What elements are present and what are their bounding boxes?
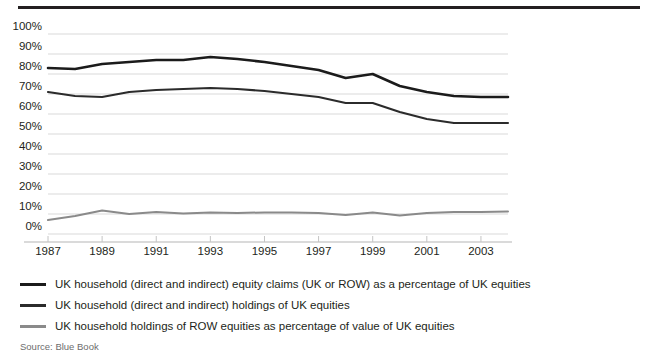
x-axis-tick-label: 1993 [198,245,224,257]
legend-line-swatch-icon [20,283,46,286]
legend-item-uk-holdings: UK household (direct and indirect) holdi… [20,295,620,316]
series-line-3 [48,210,508,220]
x-axis-tick-label: 2003 [468,245,494,257]
legend-item-label: UK household (direct and indirect) equit… [55,278,531,291]
legend-item-equity-claims: UK household (direct and indirect) equit… [20,274,620,295]
x-axis-tick-label: 1991 [143,245,169,257]
y-axis-tick-label: 40% [19,140,42,152]
y-axis-tick-label: 30% [19,160,42,172]
y-axis-tick-label: 90% [19,40,42,52]
legend-item-label: UK household holdings of ROW equities as… [55,320,455,333]
x-axis-tick-label: 1997 [306,245,332,257]
legend-item-label: UK household (direct and indirect) holdi… [55,299,350,312]
x-axis-tick-label: 1995 [252,245,278,257]
x-axis-ticks [48,236,481,242]
y-axis-tick-label: 20% [19,180,42,192]
chart-canvas: 0%10%20%30%40%50%60%70%80%90%100% 198719… [0,22,560,262]
series-line-1 [48,57,508,97]
data-series-lines [48,57,508,220]
y-axis-tick-label: 0% [25,220,42,232]
x-axis-tick-label: 2001 [414,245,440,257]
y-axis-tick-label: 10% [19,200,42,212]
legend-item-row-holdings: UK household holdings of ROW equities as… [20,316,620,337]
legend-line-swatch-icon [20,325,46,327]
y-axis-tick-label: 70% [19,80,42,92]
source-note: Source: Blue Book [20,341,99,352]
legend-line-swatch-icon [20,304,46,307]
y-axis-tick-label: 50% [19,120,42,132]
x-axis-tick-label: 1987 [35,245,61,257]
line-chart: 0%10%20%30%40%50%60%70%80%90%100% 198719… [0,22,560,262]
x-axis-tick-label: 1999 [360,245,386,257]
y-axis-tick-labels: 0%10%20%30%40%50%60%70%80%90%100% [13,22,42,232]
x-axis-tick-labels: 198719891991199319951997199920012003 [35,245,494,257]
y-axis-tick-label: 80% [19,60,42,72]
y-axis-tick-label: 100% [13,22,42,32]
x-axis-tick-label: 1989 [89,245,115,257]
y-axis-tick-label: 60% [19,100,42,112]
top-divider-rule [18,6,640,9]
chart-legend: UK household (direct and indirect) equit… [20,274,620,337]
